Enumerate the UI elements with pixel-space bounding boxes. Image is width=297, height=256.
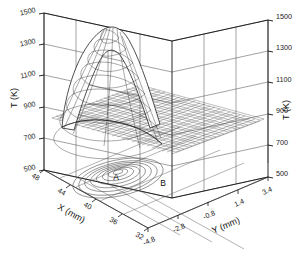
svg-text:48: 48 <box>30 171 41 183</box>
svg-text:1100: 1100 <box>19 68 36 80</box>
svg-text:-2.8: -2.8 <box>172 221 187 234</box>
surface-plot-figure: 1500 1300 1100 900 700 500 T (K) 1500 13… <box>0 0 297 256</box>
svg-text:500: 500 <box>276 169 288 178</box>
svg-text:1300: 1300 <box>19 36 37 48</box>
annotation-b: B <box>160 178 166 188</box>
svg-text:700: 700 <box>276 138 288 147</box>
y-tick-labels: -4.8 -2.8 -0.8 1.4 3.4 <box>142 185 274 248</box>
z-tick-labels-right: 1500 1300 1100 900 700 500 <box>276 12 292 178</box>
z-ticks-left <box>39 13 44 171</box>
svg-text:44: 44 <box>56 186 67 198</box>
svg-text:-0.8: -0.8 <box>202 208 217 221</box>
top-back-right <box>172 20 268 41</box>
x-axis-title: X (mm) <box>56 202 87 225</box>
z-ticks-right <box>268 20 273 178</box>
x-tick-labels: 48 44 40 36 32 <box>30 171 145 242</box>
svg-text:1100: 1100 <box>276 75 291 84</box>
plot-canvas: 1500 1300 1100 900 700 500 T (K) 1500 13… <box>0 0 297 256</box>
svg-text:900: 900 <box>23 99 37 110</box>
svg-text:1.4: 1.4 <box>233 197 246 209</box>
z-tick-labels-left: 1500 1300 1100 900 700 500 <box>19 5 37 173</box>
z-axis-title-right: T (K) <box>281 100 291 120</box>
annotation-a: A <box>113 172 119 182</box>
svg-text:3.4: 3.4 <box>261 185 274 197</box>
svg-text:700: 700 <box>23 131 37 142</box>
svg-text:40: 40 <box>82 200 93 212</box>
gaussian-peak-mesh <box>62 27 160 130</box>
svg-text:1300: 1300 <box>276 43 292 52</box>
y-axis-title: Y (mm) <box>210 215 241 236</box>
svg-text:1500: 1500 <box>19 5 37 17</box>
y-ticks <box>148 177 268 232</box>
svg-text:36: 36 <box>108 215 119 227</box>
svg-text:1500: 1500 <box>276 12 292 21</box>
z-axis-title-left: T (K) <box>9 88 19 108</box>
